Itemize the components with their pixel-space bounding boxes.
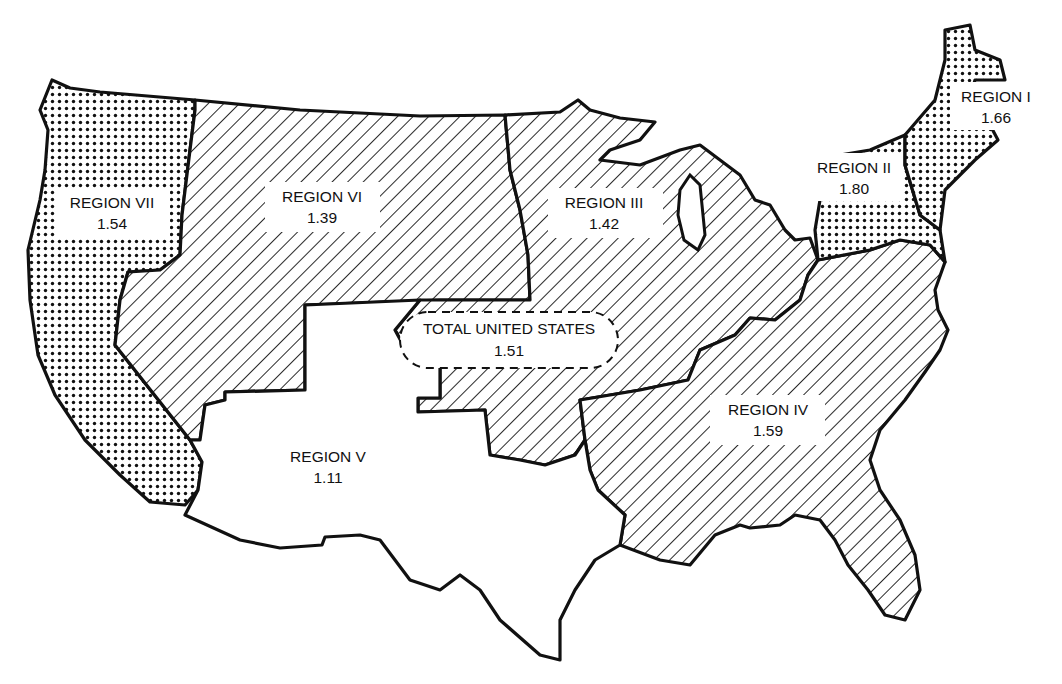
region-vii-value: 1.54 [97,215,128,232]
region-i-name: REGION I [961,88,1031,105]
us-region-map: REGION VII 1.54 REGION VI 1.39 REGION II… [0,0,1062,684]
region-vii-name: REGION VII [70,194,154,211]
total-us-label: TOTAL UNITED STATES 1.51 [400,312,618,368]
region-iii-label: REGION III 1.42 [548,188,663,238]
region-i-value: 1.66 [981,109,1011,126]
region-iii-value: 1.42 [589,215,619,232]
region-iii-name: REGION III [565,194,643,211]
region-vi-label: REGION VI 1.39 [265,182,380,232]
region-iv-value: 1.59 [753,422,783,439]
region-v-name: REGION V [290,448,366,465]
total-us-name: TOTAL UNITED STATES [423,320,595,337]
region-ii-value: 1.80 [839,180,870,197]
region-vi-value: 1.39 [307,209,337,226]
region-iv-label: REGION IV 1.59 [710,395,825,445]
region-iv-name: REGION IV [728,401,809,418]
total-us-value: 1.51 [494,342,524,359]
region-vi-name: REGION VI [282,188,362,205]
region-i-label: REGION I 1.66 [950,82,1042,130]
region-v-value: 1.11 [313,469,342,486]
region-ii-label: REGION II 1.80 [806,153,902,201]
region-vii-label: REGION VII 1.54 [55,188,170,238]
region-ii-name: REGION II [817,159,891,176]
